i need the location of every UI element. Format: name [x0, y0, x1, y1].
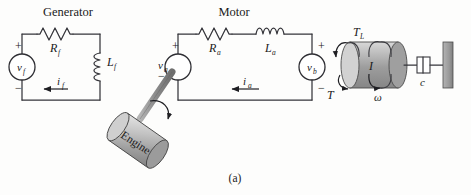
current-ia-subscript: a [248, 81, 252, 90]
inductor-lf-label: L [106, 55, 114, 69]
inductor-la-subscript: a [272, 48, 276, 57]
resistor-ra-label: R [208, 41, 217, 55]
resistor-ra-symbol [196, 28, 232, 40]
generator-circuit [9, 28, 100, 100]
inertia-cylinder-left-cap [341, 42, 359, 88]
motor-plus-sign: + [172, 39, 179, 53]
load-assembly [336, 42, 453, 89]
circuit-figure: Generator Motor R f L f v f + − i f R a … [0, 0, 471, 195]
generator-plus-sign: + [15, 39, 22, 53]
back-emf-label: v [307, 61, 312, 73]
inductor-lf-subscript: f [114, 62, 117, 71]
inductor-lf-symbol [94, 53, 100, 81]
damper-label: c [420, 76, 425, 88]
back-emf-source-circle [299, 54, 325, 80]
current-if-label: i [57, 75, 60, 87]
resistor-rf-label: R [49, 41, 58, 55]
generator-source-label: v [17, 61, 22, 73]
inductor-la-symbol [256, 28, 284, 34]
back-emf-minus-sign: − [318, 81, 325, 95]
torque-load-subscript: L [359, 32, 364, 41]
resistor-rf-symbol [37, 28, 73, 40]
motor-minus-sign: − [158, 69, 165, 83]
back-emf-plus-sign: + [318, 39, 325, 53]
engine-assembly [103, 72, 173, 172]
engine-shaft-edge [140, 72, 172, 119]
figure-canvas: Generator Motor R f L f v f + − i f R a … [0, 0, 471, 195]
figure-caption: (a) [229, 172, 242, 185]
ground-wall [443, 42, 453, 88]
generator-title: Generator [43, 5, 94, 19]
inductor-la-label: L [264, 41, 272, 55]
motor-circuit [165, 28, 325, 100]
resistor-rf-subscript: f [58, 48, 61, 57]
resistor-ra-subscript: a [217, 48, 221, 57]
generator-source-circle [9, 54, 35, 80]
torque-motor-label: T [327, 88, 335, 102]
motor-title: Motor [218, 5, 250, 19]
generator-minus-sign: − [15, 81, 22, 95]
omega-label: ω [374, 91, 382, 103]
current-ia-label: i [243, 75, 246, 87]
back-emf-subscript: b [313, 67, 317, 76]
